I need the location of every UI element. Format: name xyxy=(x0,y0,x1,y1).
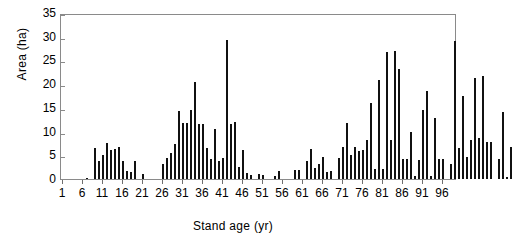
bar xyxy=(322,157,324,179)
bar xyxy=(370,103,372,179)
bar xyxy=(170,153,172,179)
bar xyxy=(374,169,376,179)
bar xyxy=(410,132,412,179)
bar xyxy=(474,78,476,179)
bar xyxy=(414,176,416,179)
x-axis-tick xyxy=(282,180,283,184)
bar xyxy=(358,151,360,179)
bar xyxy=(434,118,436,179)
bar xyxy=(342,147,344,179)
bar xyxy=(134,161,136,179)
bar xyxy=(314,168,316,179)
x-axis-tick xyxy=(202,180,203,184)
x-axis-tick xyxy=(242,180,243,184)
bar xyxy=(386,52,388,179)
y-tick-label: 10 xyxy=(43,127,56,137)
bar xyxy=(246,173,248,179)
y-tick-label: 15 xyxy=(43,103,56,113)
bar xyxy=(362,150,364,179)
bar xyxy=(318,164,320,179)
bar xyxy=(298,170,300,179)
y-axis-tick-labels: 05101520253035 xyxy=(26,0,56,246)
bar xyxy=(238,167,240,179)
y-tick-label: 5 xyxy=(49,150,56,160)
x-axis-tick xyxy=(182,180,183,184)
bar xyxy=(454,41,456,179)
bar xyxy=(310,149,312,179)
bar xyxy=(190,110,192,179)
bar xyxy=(230,124,232,179)
bar xyxy=(262,175,264,179)
x-axis-tick xyxy=(142,180,143,184)
bar xyxy=(194,82,196,179)
bar xyxy=(198,124,200,179)
bar xyxy=(114,149,116,179)
bar xyxy=(186,123,188,179)
y-tick-label: 35 xyxy=(43,8,56,18)
x-axis-tick xyxy=(122,180,123,184)
bar xyxy=(250,175,252,179)
bar xyxy=(206,148,208,179)
bar xyxy=(226,40,228,179)
bar xyxy=(222,158,224,179)
y-tick-label: 30 xyxy=(43,32,56,42)
bar xyxy=(390,140,392,179)
bar xyxy=(382,169,384,179)
bar xyxy=(486,142,488,179)
x-axis-tick xyxy=(322,180,323,184)
bar xyxy=(274,176,276,179)
y-axis-tick xyxy=(61,110,65,111)
x-axis-tick xyxy=(442,180,443,184)
y-tick-label: 0 xyxy=(49,174,56,184)
bar xyxy=(498,159,500,179)
bar-series xyxy=(61,15,455,179)
x-axis-tick xyxy=(62,180,63,184)
y-axis-tick xyxy=(61,134,65,135)
bar xyxy=(118,147,120,179)
bar xyxy=(338,158,340,179)
bar xyxy=(106,143,108,179)
x-axis-tick-labels: 16111621263136414651566166717681869196 xyxy=(0,186,466,206)
x-axis-tick xyxy=(362,180,363,184)
bar xyxy=(470,140,472,179)
x-axis-tick xyxy=(402,180,403,184)
x-axis-tick xyxy=(102,180,103,184)
bar xyxy=(350,155,352,179)
x-axis-title: Stand age (yr) xyxy=(0,219,466,233)
x-axis-tick xyxy=(382,180,383,184)
y-axis-tick xyxy=(61,39,65,40)
bar xyxy=(162,164,164,179)
bar xyxy=(326,172,328,179)
bar xyxy=(422,110,424,179)
bar xyxy=(402,159,404,179)
bar xyxy=(278,171,280,179)
bar xyxy=(98,161,100,179)
bar xyxy=(306,161,308,179)
bar xyxy=(438,159,440,179)
bar xyxy=(122,161,124,179)
bar xyxy=(506,177,508,179)
bar xyxy=(394,51,396,179)
bar xyxy=(174,144,176,179)
y-axis-tick xyxy=(61,62,65,63)
bar xyxy=(430,176,432,179)
bar xyxy=(258,174,260,179)
x-axis-tick xyxy=(162,180,163,184)
bar xyxy=(426,91,428,179)
bar xyxy=(490,142,492,179)
bar xyxy=(466,157,468,179)
y-axis-tick xyxy=(61,157,65,158)
plot-area xyxy=(60,14,456,180)
bar xyxy=(450,164,452,179)
bar xyxy=(398,69,400,179)
bar xyxy=(178,111,180,179)
bar xyxy=(218,161,220,179)
bar xyxy=(102,155,104,179)
bar xyxy=(346,123,348,179)
x-axis-tick xyxy=(222,180,223,184)
y-tick-label: 20 xyxy=(43,79,56,89)
bar xyxy=(166,158,168,179)
bar xyxy=(234,122,236,179)
bar xyxy=(330,171,332,179)
